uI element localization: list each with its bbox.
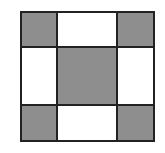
cell-r1c3-shaded: [117, 12, 154, 47]
cell-r1c2-plain: [57, 12, 117, 47]
cell-r3c1-shaded: [21, 105, 57, 141]
cell-r2c3-plain: [117, 47, 154, 105]
cell-r3c2-plain: [57, 105, 117, 141]
cell-r2c1-plain: [21, 47, 57, 105]
cell-r1c1-shaded: [21, 12, 57, 47]
cell-r3c3-shaded: [117, 105, 154, 141]
grid-diagram: [20, 11, 155, 142]
cell-r2c2-shaded: [57, 47, 117, 105]
